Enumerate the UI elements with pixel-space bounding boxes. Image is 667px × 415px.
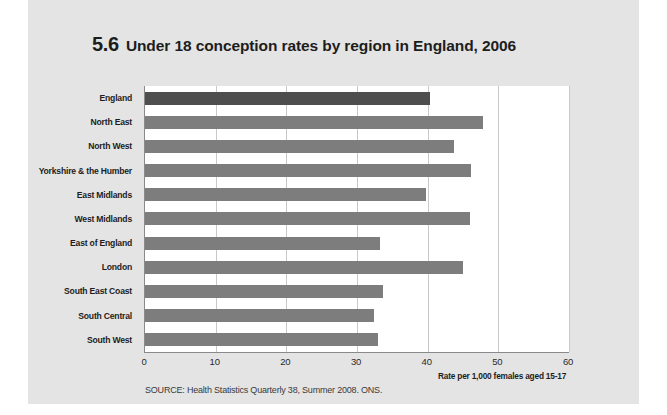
figure-number: 5.6 <box>92 33 119 56</box>
category-label-london: London <box>102 255 132 279</box>
bar-row <box>145 134 569 158</box>
category-label-south-west: South West <box>87 328 132 352</box>
bar-row <box>145 231 569 255</box>
bar-row <box>145 110 569 134</box>
figure-title: 5.6 Under 18 conception rates by region … <box>92 33 516 59</box>
x-tick-label-50: 50 <box>492 356 502 367</box>
gridline-60 <box>569 86 570 352</box>
x-tick-label-20: 20 <box>280 356 290 367</box>
bar-row <box>145 159 569 183</box>
x-tick-label-40: 40 <box>422 356 432 367</box>
bar-south-west <box>145 333 378 346</box>
bar-london <box>145 261 463 274</box>
category-label-england: England <box>100 86 133 110</box>
bar-row <box>145 279 569 303</box>
bar-row <box>145 328 569 352</box>
bar-row <box>145 304 569 328</box>
category-label-east-midlands: East Midlands <box>77 183 132 207</box>
bar-north-west <box>145 140 454 153</box>
bar-row <box>145 207 569 231</box>
bar-south-central <box>145 309 374 322</box>
x-tick-label-0: 0 <box>141 356 146 367</box>
bar-east-of-england <box>145 237 380 250</box>
bar-north-east <box>145 116 483 129</box>
category-label-north-east: North East <box>91 110 132 134</box>
category-label-north-west: North West <box>88 134 132 158</box>
x-axis-title: Rate per 1,000 females aged 15-17 <box>438 371 566 381</box>
bar-rows <box>145 86 569 352</box>
bar-west-midlands <box>145 212 470 225</box>
category-label-east-of-england: East of England <box>70 231 132 255</box>
bar-row <box>145 86 569 110</box>
category-axis-labels: EnglandNorth EastNorth WestYorkshire & t… <box>0 86 138 352</box>
chart-page: 5.6 Under 18 conception rates by region … <box>0 0 667 415</box>
category-label-south-central: South Central <box>78 304 132 328</box>
x-tick-label-60: 60 <box>563 356 573 367</box>
bar-south-east-coast <box>145 285 383 298</box>
x-tick-label-10: 10 <box>210 356 220 367</box>
bar-england <box>145 92 430 105</box>
bar-row <box>145 183 569 207</box>
bar-row <box>145 255 569 279</box>
category-label-yorkshire-the-humber: Yorkshire & the Humber <box>39 159 132 183</box>
figure-title-text: Under 18 conception rates by region in E… <box>126 37 516 55</box>
bar-east-midlands <box>145 188 426 201</box>
source-note: SOURCE: Health Statistics Quarterly 38, … <box>145 385 382 395</box>
x-tick-label-30: 30 <box>351 356 361 367</box>
plot-area <box>144 86 569 353</box>
category-label-south-east-coast: South East Coast <box>64 279 132 303</box>
category-label-west-midlands: West Midlands <box>75 207 132 231</box>
bar-yorkshire-the-humber <box>145 164 471 177</box>
